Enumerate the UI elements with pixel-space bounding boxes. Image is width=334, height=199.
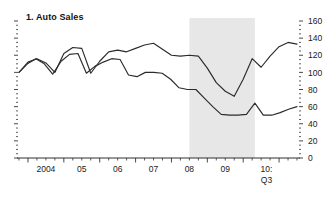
left-axis-ticks: [14, 21, 18, 158]
x-axis-tick-label: 07: [149, 164, 159, 174]
x-axis-tick-label: 2004: [36, 164, 55, 174]
y-axis-tick-label: 120: [308, 50, 322, 60]
y-axis-tick-label: 40: [308, 119, 318, 129]
x-axis-tick-label: 09: [221, 164, 231, 174]
x-axis-tick-label: 10:: [261, 164, 273, 174]
series-line-lower: [19, 54, 297, 116]
auto-sales-chart-panel: 1. Auto Sales 020406080100120140160 2004…: [0, 0, 334, 199]
y-axis-tick-label: 60: [308, 102, 318, 112]
chart-canvas: 020406080100120140160 2004050607080910:Q…: [0, 0, 334, 199]
x-axis-tick-label: 06: [113, 164, 123, 174]
x-axis-tick-label-sub: Q3: [261, 175, 273, 185]
series-line-upper: [19, 42, 297, 96]
y-axis-tick-label: 20: [308, 136, 318, 146]
y-axis-tick-label: 160: [308, 16, 322, 26]
y-axis-tick-labels: 020406080100120140160: [308, 16, 322, 163]
y-axis-tick-label: 80: [308, 85, 318, 95]
right-axis-ticks: [299, 21, 303, 158]
y-axis-tick-label: 140: [308, 33, 322, 43]
y-axis-tick-label: 0: [308, 153, 313, 163]
x-axis-tick-label: 05: [77, 164, 87, 174]
x-axis-ticks: [19, 158, 297, 163]
y-axis-tick-label: 100: [308, 68, 322, 78]
x-axis-tick-label: 08: [185, 164, 195, 174]
x-axis-tick-labels: 2004050607080910:Q3: [36, 164, 272, 185]
